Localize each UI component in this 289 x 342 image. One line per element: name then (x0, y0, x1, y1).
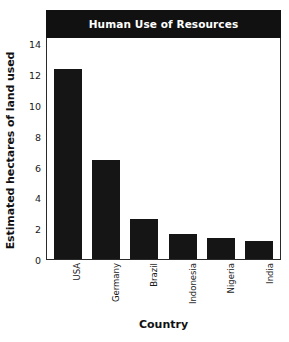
x-axis-tick: USA (53, 261, 81, 313)
bar (92, 160, 120, 259)
y-axis-tick: 14 (29, 39, 41, 50)
y-axis-tick: 8 (35, 131, 41, 142)
x-axis-tick: Germany (92, 261, 120, 313)
bar (169, 234, 197, 259)
bar-chart: Estimated hectares of land used 02468101… (0, 0, 289, 342)
bar (130, 219, 158, 259)
x-axis-tick-label: Brazil (149, 263, 159, 287)
bar (54, 69, 82, 259)
x-axis-tick-label: Indonesia (188, 263, 198, 304)
x-axis-tick-label: Nigeria (226, 263, 236, 293)
y-axis-tick-labels: 02468101214 (22, 38, 44, 260)
x-axis-title: Country (46, 313, 281, 332)
chart-title: Human Use of Resources (89, 18, 239, 30)
y-axis-tick: 10 (29, 100, 41, 111)
x-axis-tick: Nigeria (207, 261, 235, 313)
bar (207, 238, 235, 259)
x-axis-tick-label: Germany (111, 263, 121, 302)
y-axis-title: Estimated hectares of land used (0, 38, 22, 262)
x-axis-tick: Brazil (130, 261, 158, 313)
y-axis-tick: 0 (35, 255, 41, 266)
chart-title-bar: Human Use of Resources (46, 10, 281, 38)
x-axis-tick: Indonesia (169, 261, 197, 313)
x-axis-title-label: Country (139, 318, 188, 331)
bar-series (47, 38, 280, 259)
plot-area (46, 38, 281, 260)
x-axis-tick-label: India (265, 263, 275, 284)
y-axis-tick: 4 (35, 193, 41, 204)
y-axis-tick: 2 (35, 224, 41, 235)
y-axis-tick: 6 (35, 162, 41, 173)
x-axis-tick-label: USA (72, 263, 82, 281)
x-axis-tick: India (246, 261, 274, 313)
y-axis-title-label: Estimated hectares of land used (5, 51, 18, 249)
bar (245, 241, 273, 260)
y-axis-tick: 12 (29, 70, 41, 81)
x-axis-tick-labels: USAGermanyBrazilIndonesiaNigeriaIndia (46, 261, 281, 313)
